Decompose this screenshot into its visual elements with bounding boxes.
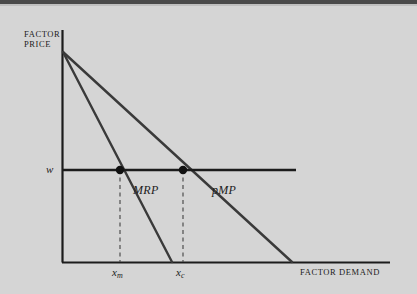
wage-axis-label: w — [46, 163, 53, 175]
plot-canvas — [0, 0, 417, 294]
mrp-curve-label: MRP — [133, 183, 159, 198]
xm-tick-label: xm — [112, 266, 123, 280]
xm-tick-subscript: m — [117, 271, 123, 280]
xc-tick-label: xc — [176, 266, 184, 280]
y-axis-caption-line2: PRICE — [24, 39, 51, 49]
xc-tick-subscript: c — [181, 271, 185, 280]
pmp-curve — [63, 52, 292, 262]
pmp-curve-label: pMP — [212, 183, 236, 198]
y-axis-caption: FACTORPRICE — [24, 29, 60, 49]
marker-xm — [116, 166, 124, 174]
y-axis-caption-line1: FACTOR — [24, 29, 60, 39]
marker-xc — [179, 166, 187, 174]
economics-figure: FACTORPRICE FACTOR DEMAND MRP pMP w xm x… — [0, 0, 417, 294]
mrp-curve — [63, 52, 172, 262]
x-axis-caption: FACTOR DEMAND — [300, 267, 380, 277]
